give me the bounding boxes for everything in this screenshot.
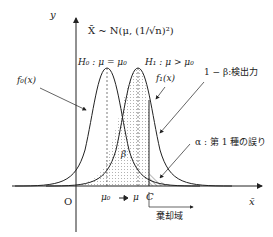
- origin-label: O: [64, 197, 72, 207]
- mu-tick-label: μ: [133, 193, 139, 202]
- beta-label: β: [121, 150, 126, 159]
- f0-label: f₀(x): [17, 76, 36, 85]
- c-tick-label: C: [146, 192, 154, 202]
- rejection-label: 棄却域: [156, 212, 183, 221]
- hypothesis-test-diagram: y X̄ ~ N(μ, (1/√n)²) H₀ : μ = μ₀ H₁ : μ …: [0, 0, 273, 237]
- f1-label: f₁(x): [156, 74, 175, 83]
- power-pointer: [160, 82, 204, 133]
- mu0-tick-label: μ₀: [101, 193, 110, 202]
- h0-label: H₀ : μ = μ₀: [78, 58, 127, 67]
- alpha-label: α : 第 1 種の誤り: [195, 138, 266, 147]
- alpha-pointer: [160, 144, 190, 178]
- f1-pointer: [156, 87, 165, 99]
- distribution-label: X̄ ~ N(μ, (1/√n)²): [88, 26, 174, 36]
- power-label: 1 − β:検出力: [204, 68, 258, 77]
- beta-region: [48, 68, 149, 186]
- shift-arrow-icon: [119, 196, 128, 201]
- y-axis-label: y: [50, 10, 56, 20]
- f0-pointer: [40, 88, 86, 110]
- x-axis-label: x̄: [249, 197, 255, 207]
- h1-label: H₁ : μ > μ₀: [145, 58, 194, 67]
